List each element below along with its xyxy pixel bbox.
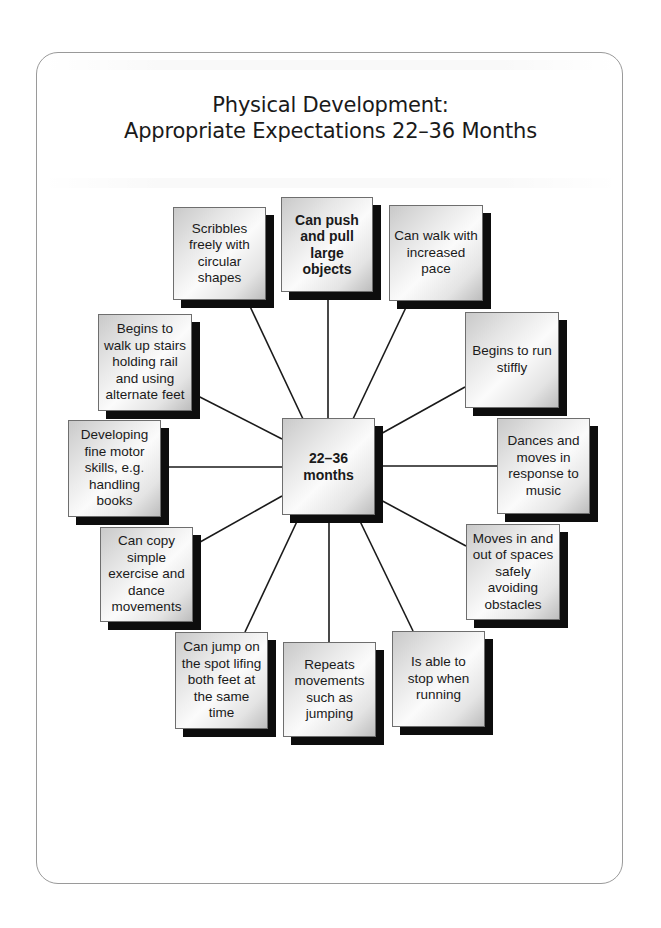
node-walk-pace: Can walk with increased pace bbox=[389, 205, 483, 301]
center-node-22-36-months: 22–36 months bbox=[282, 418, 375, 515]
connector-jump-spot bbox=[245, 515, 300, 632]
node-push-pull: Can push and pull large objects bbox=[281, 197, 373, 292]
node-stairs: Begins to walk up stairs holding rail an… bbox=[98, 314, 192, 411]
connector-walk-pace bbox=[353, 301, 409, 419]
connector-stairs bbox=[192, 393, 282, 439]
node-stop-running: Is able to stop when running bbox=[392, 631, 485, 727]
connector-run-stiffly bbox=[377, 387, 465, 436]
node-dances: Dances and moves in response to music bbox=[497, 418, 590, 514]
node-fine-motor: Developing fine motor skills, e.g. handl… bbox=[68, 420, 161, 517]
connector-moves-spaces bbox=[377, 498, 466, 546]
node-repeats: Repeats movements such as jumping bbox=[283, 642, 376, 737]
connector-copy-exercise bbox=[193, 496, 282, 546]
node-moves-spaces: Moves in and out of spaces safely avoidi… bbox=[466, 524, 560, 620]
node-run-stiffly: Begins to run stiffly bbox=[465, 312, 559, 408]
node-copy-exercise: Can copy simple exercise and dance movem… bbox=[100, 527, 193, 622]
connector-scribbles bbox=[247, 300, 303, 419]
node-scribbles: Scribbles freely with circular shapes bbox=[173, 207, 266, 300]
node-jump-spot: Can jump on the spot lifing both feet at… bbox=[175, 632, 268, 729]
connector-stop-running bbox=[357, 515, 413, 631]
